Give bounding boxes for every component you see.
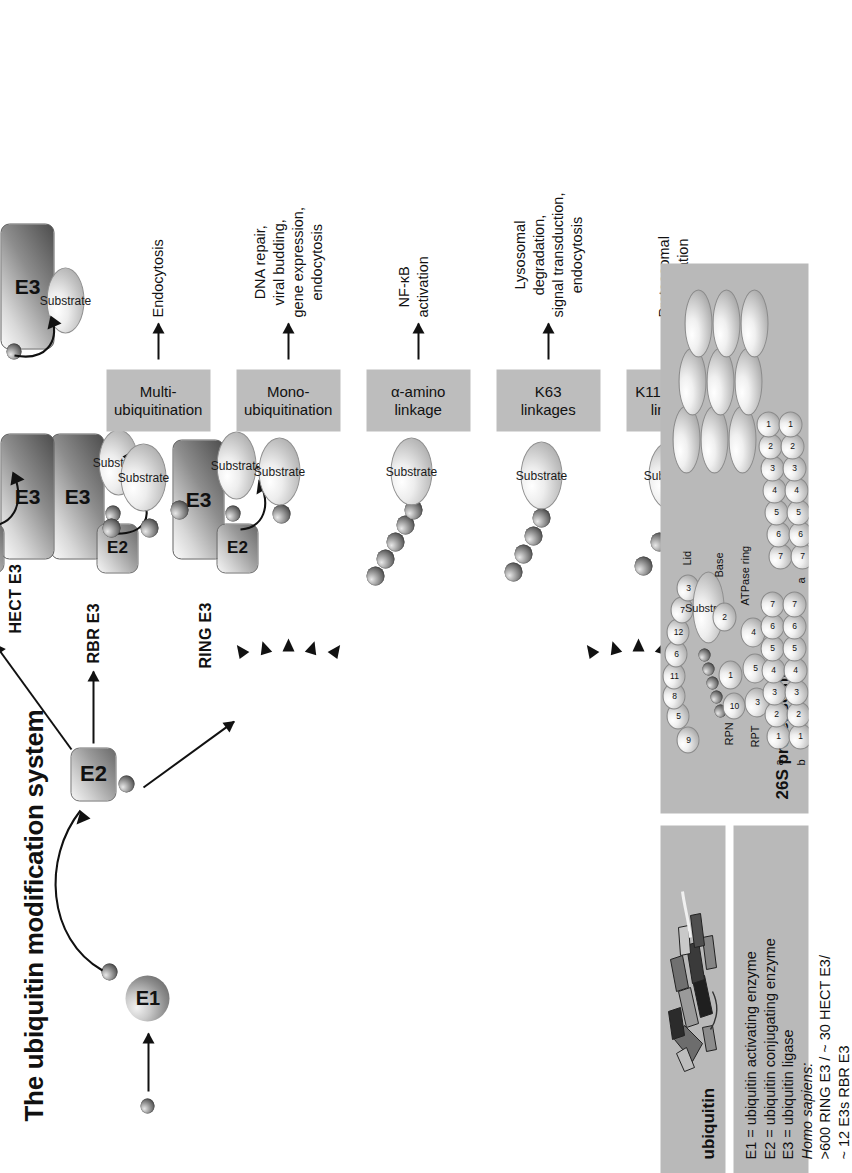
ub-bead — [504, 562, 522, 581]
outcome-multi: Substrate Multi- ubiquitination Endocyto… — [98, 251, 218, 581]
rbr-e3-label: E3 — [64, 484, 90, 508]
e2-label: E2 — [80, 761, 107, 787]
linkage-class-line1: K63 — [520, 382, 575, 400]
ring-a2-1: 1 — [788, 419, 793, 429]
arrow-hect-e3-to-substrate — [12, 283, 66, 363]
linkage-class-box-alpha-amino: α-amino linkage — [366, 369, 470, 431]
ring-b2-4: 4 — [772, 485, 777, 495]
ring-label-b: b — [794, 759, 806, 765]
rpn-7: 7 — [679, 605, 684, 615]
ub-bead — [170, 500, 188, 519]
substrate-label: Substrate — [385, 464, 436, 478]
outcome-line: NF-κB — [394, 256, 413, 317]
ring-a-5: 5 — [770, 643, 775, 653]
ring-b2-3: 3 — [770, 463, 775, 473]
ring-b-5: 5 — [792, 643, 797, 653]
outcome-line: gene expression, — [288, 207, 307, 317]
outcome-alpha-amino: Substrate α-amino linkage NF-κB activati… — [358, 251, 478, 581]
linkage-class-line2: ubiquitination — [244, 400, 332, 418]
rpn-11: 11 — [669, 671, 678, 681]
outcome-line: degradation, — [529, 192, 548, 317]
outcome-text-multi: Endocytosis — [148, 239, 167, 317]
outcome-line: Endocytosis — [148, 239, 167, 317]
arrow-e1-to-e2 — [40, 788, 120, 978]
ub-bead — [710, 690, 722, 703]
ring-b2-1: 1 — [766, 419, 771, 429]
ring-b2-7: 7 — [778, 551, 783, 561]
hect-e3-complex-transfer: E3 Substrate — [0, 163, 66, 363]
ub-bead — [702, 662, 714, 675]
outcome-text-alpha-amino: NF-κB activation — [394, 256, 432, 317]
rpt-5: 5 — [752, 663, 757, 673]
outcome-line: DNA repair, — [250, 207, 269, 317]
ub-bead — [524, 526, 542, 545]
ubiquitin-panel: ubiquitin — [660, 825, 725, 1173]
substrate-multi: Substrate — [120, 443, 166, 511]
ub-bead — [386, 532, 404, 551]
proteasome-label-atpase-ring: ATPase ring — [738, 545, 750, 605]
outcome-k63: Substrate K63 linkages Lysosomal degrada… — [488, 251, 608, 581]
proteasome-label-rpt: RPT — [748, 725, 760, 747]
e1-label: E1 — [135, 987, 159, 1010]
legend-line: E3 = ubiquitin ligase — [778, 938, 797, 1159]
ring-a2-4: 4 — [794, 485, 799, 495]
e3-class-label-rbr: RBR E3 — [84, 603, 102, 663]
ring-b2-5: 5 — [774, 507, 779, 517]
legend-line-species: Homo sapiens: — [797, 938, 816, 1159]
e3-class-label-ring: RING E3 — [196, 602, 214, 668]
legend-line: E1 = ubiquitin activating enzyme — [741, 938, 760, 1159]
ring-b-7: 7 — [792, 599, 797, 609]
e2-charged-ubiquitin-bead — [118, 775, 134, 792]
proteasome-label-lid: Lid — [680, 550, 692, 565]
ub-bead — [376, 549, 394, 568]
proteasome-label-rpn: RPN — [722, 722, 734, 745]
rpn-3: 3 — [685, 583, 690, 593]
arrow-ubiquitin-to-e1 — [147, 1033, 149, 1091]
ub-bead — [634, 556, 652, 575]
ring-b-6: 6 — [792, 621, 797, 631]
arrow-hect-e2-to-e3 — [0, 443, 28, 529]
rpn-12: 12 — [673, 627, 682, 637]
ring-b2-2: 2 — [768, 441, 773, 451]
rpn-9: 9 — [685, 735, 690, 745]
linkage-class-line2: linkages — [520, 400, 575, 418]
ub-bead — [102, 518, 120, 537]
ring-a-1: 1 — [776, 731, 781, 741]
ub-bead — [514, 544, 532, 563]
proteasome-panel: 26S proteasome 9 5 8 11 6 12 7 3 Lid Sub… — [660, 263, 808, 813]
ub-bead — [366, 566, 384, 585]
legend-line: E2 = ubiquitin conjugating enzyme — [760, 938, 779, 1159]
rpn-5: 5 — [675, 711, 680, 721]
ring-b-3: 3 — [794, 687, 799, 697]
e1-enzyme: E1 — [125, 975, 169, 1021]
legend-line: ~ 12 E3s RBR E3 — [834, 938, 852, 1159]
linkage-class-box-multi: Multi- ubiquitination — [106, 369, 210, 431]
ring-b2-6: 6 — [776, 529, 781, 539]
outcome-line: viral budding, — [269, 207, 288, 317]
substrate-label: Substrate — [253, 464, 304, 478]
e3-class-label-hect: HECT E3 — [6, 563, 24, 633]
rpn-8: 8 — [671, 691, 676, 701]
ring-label-a2: a — [794, 577, 806, 583]
ring-a-2: 2 — [774, 709, 779, 719]
outcome-line: endocytosis — [567, 192, 586, 317]
arrow-e2-to-ring-e3 — [142, 720, 234, 787]
proteasome-label-base: Base — [712, 552, 724, 577]
outcome-mono: Substrate Mono- ubiquitination DNA repai… — [228, 251, 348, 581]
substrate-label: Substrate — [117, 470, 168, 484]
substrate-mono: Substrate — [258, 437, 300, 505]
rpt-4: 4 — [750, 627, 755, 637]
arrow-outcome-alpha-amino — [417, 323, 419, 359]
outcome-line: activation — [413, 256, 432, 317]
ub-bead — [706, 676, 718, 689]
linkage-class-box-k63: K63 linkages — [496, 369, 600, 431]
ring-a-7: 7 — [770, 599, 775, 609]
linkage-class-line2: ubiquitination — [114, 400, 202, 418]
ubiquitin-ribbon-structure — [662, 877, 724, 1087]
rpn-6: 6 — [673, 649, 678, 659]
hect-e3-complex-charging: E3 E2 — [0, 373, 58, 573]
rpn-2: 2 — [722, 612, 727, 622]
ring-label-a: a — [772, 759, 784, 765]
